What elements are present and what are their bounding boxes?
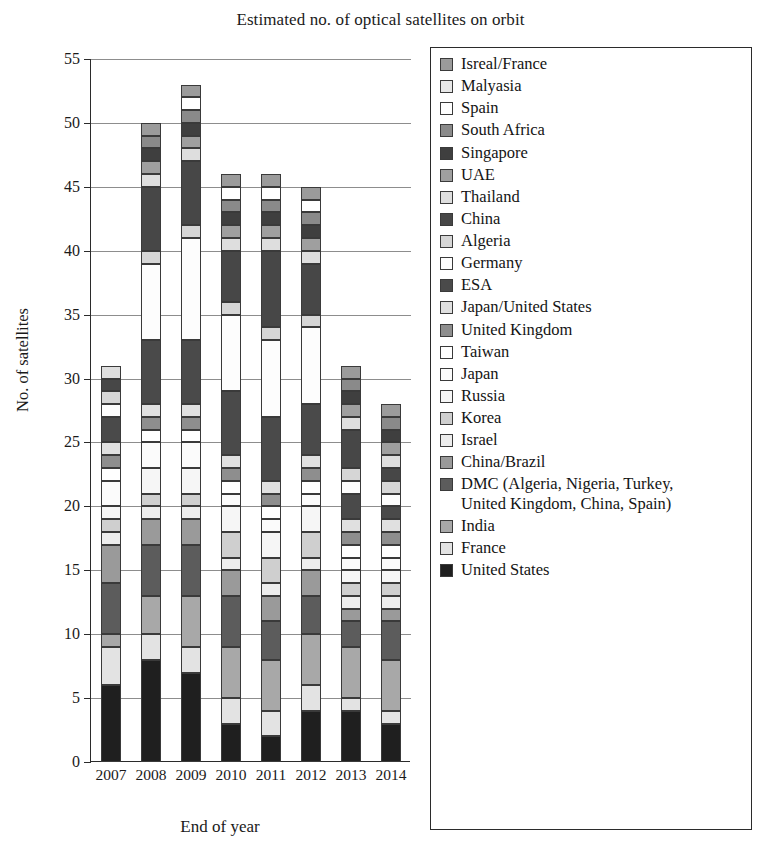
bar-segment[interactable]	[181, 110, 201, 123]
bar-segment[interactable]	[101, 417, 121, 443]
bar-segment[interactable]	[341, 391, 361, 404]
bar-segment[interactable]	[341, 609, 361, 622]
bar-segment[interactable]	[261, 596, 281, 622]
bar-segment[interactable]	[221, 532, 241, 558]
bar-segment[interactable]	[341, 647, 361, 698]
bar-segment[interactable]	[141, 506, 161, 519]
bar-segment[interactable]	[261, 506, 281, 519]
bar-segment[interactable]	[341, 481, 361, 494]
bar-segment[interactable]	[381, 532, 401, 545]
bar-segment[interactable]	[221, 468, 241, 481]
bar-stack[interactable]	[181, 59, 201, 762]
bar-segment[interactable]	[301, 404, 321, 455]
bar-segment[interactable]	[101, 519, 121, 532]
bar-segment[interactable]	[181, 161, 201, 225]
bar-segment[interactable]	[261, 621, 281, 659]
legend-item[interactable]: Thailand	[440, 187, 743, 206]
bar-segment[interactable]	[101, 379, 121, 392]
bar-segment[interactable]	[181, 123, 201, 136]
bar-segment[interactable]	[381, 711, 401, 724]
bar-segment[interactable]	[341, 468, 361, 481]
bar-segment[interactable]	[221, 698, 241, 724]
bar-segment[interactable]	[141, 404, 161, 417]
bar-segment[interactable]	[101, 647, 121, 685]
bar-segment[interactable]	[301, 212, 321, 225]
bar-segment[interactable]	[101, 366, 121, 379]
bar-segment[interactable]	[101, 391, 121, 404]
bar-stack[interactable]	[101, 59, 121, 762]
bar-segment[interactable]	[301, 200, 321, 213]
bar-segment[interactable]	[181, 519, 201, 545]
bar-segment[interactable]	[301, 634, 321, 685]
bar-segment[interactable]	[141, 264, 161, 341]
legend-item[interactable]: Algeria	[440, 231, 743, 250]
bar-segment[interactable]	[101, 583, 121, 634]
bar-segment[interactable]	[341, 404, 361, 417]
legend-item[interactable]: China	[440, 209, 743, 228]
bar-segment[interactable]	[101, 455, 121, 468]
bar-segment[interactable]	[261, 660, 281, 711]
legend-item[interactable]: Taiwan	[440, 342, 743, 361]
bar-segment[interactable]	[101, 685, 121, 762]
legend-item[interactable]: Russia	[440, 386, 743, 405]
bar-segment[interactable]	[221, 455, 241, 468]
legend-item[interactable]: Israel	[440, 430, 743, 449]
bar-segment[interactable]	[181, 340, 201, 404]
bar-segment[interactable]	[261, 494, 281, 507]
bar-segment[interactable]	[341, 583, 361, 596]
bar-segment[interactable]	[301, 251, 321, 264]
bar-segment[interactable]	[221, 391, 241, 455]
bar-segment[interactable]	[301, 187, 321, 200]
bar-segment[interactable]	[181, 596, 201, 647]
bar-segment[interactable]	[341, 711, 361, 762]
bar-segment[interactable]	[341, 570, 361, 583]
bar-segment[interactable]	[141, 494, 161, 507]
bar-segment[interactable]	[261, 519, 281, 532]
bar-segment[interactable]	[181, 404, 201, 417]
bar-segment[interactable]	[261, 481, 281, 494]
bar-segment[interactable]	[141, 442, 161, 468]
bar-segment[interactable]	[381, 430, 401, 443]
bar-segment[interactable]	[261, 251, 281, 328]
bar-segment[interactable]	[341, 532, 361, 545]
bar-segment[interactable]	[301, 327, 321, 404]
bar-segment[interactable]	[381, 417, 401, 430]
bar-segment[interactable]	[181, 647, 201, 673]
legend-item[interactable]: Japan	[440, 364, 743, 383]
bar-segment[interactable]	[221, 212, 241, 225]
bar-segment[interactable]	[301, 225, 321, 238]
legend-item[interactable]: Malyasia	[440, 76, 743, 95]
bar-stack[interactable]	[261, 59, 281, 762]
bar-segment[interactable]	[381, 609, 401, 622]
legend-item[interactable]: China/Brazil	[440, 452, 743, 471]
bar-segment[interactable]	[221, 558, 241, 571]
bar-segment[interactable]	[141, 148, 161, 161]
bar-segment[interactable]	[341, 430, 361, 468]
bar-segment[interactable]	[301, 596, 321, 634]
bar-segment[interactable]	[221, 174, 241, 187]
bar-segment[interactable]	[381, 583, 401, 596]
bar-segment[interactable]	[381, 621, 401, 659]
bar-segment[interactable]	[141, 136, 161, 149]
bar-segment[interactable]	[181, 506, 201, 519]
bar-segment[interactable]	[381, 481, 401, 494]
bar-segment[interactable]	[301, 455, 321, 468]
bar-segment[interactable]	[181, 545, 201, 596]
bar-segment[interactable]	[141, 545, 161, 596]
bar-segment[interactable]	[381, 558, 401, 571]
bar-stack[interactable]	[381, 59, 401, 762]
legend-item[interactable]: Spain	[440, 98, 743, 117]
legend-item[interactable]: ESA	[440, 275, 743, 294]
bar-segment[interactable]	[261, 200, 281, 213]
bar-segment[interactable]	[101, 506, 121, 519]
bar-segment[interactable]	[141, 634, 161, 660]
legend-item[interactable]: United States	[440, 560, 743, 579]
bar-segment[interactable]	[221, 506, 241, 532]
bar-segment[interactable]	[141, 430, 161, 443]
bar-segment[interactable]	[141, 251, 161, 264]
bar-segment[interactable]	[141, 519, 161, 545]
legend-item[interactable]: Isreal/France	[440, 54, 743, 73]
bar-segment[interactable]	[141, 123, 161, 136]
bar-segment[interactable]	[261, 711, 281, 737]
bar-segment[interactable]	[381, 442, 401, 455]
